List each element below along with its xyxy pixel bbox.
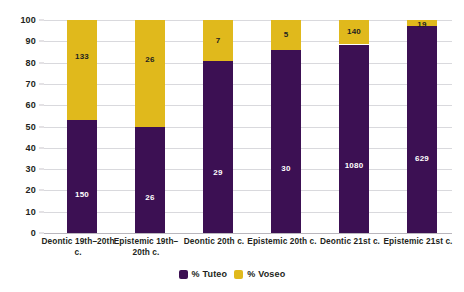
x-axis-category-label: Deontic 20th c. bbox=[176, 236, 252, 247]
bar-value-label-voseo: 7 bbox=[203, 36, 233, 45]
gridline bbox=[44, 105, 452, 106]
y-axis-tick-label: 10 bbox=[26, 207, 36, 217]
bar-group[interactable]: 133150 bbox=[67, 20, 97, 233]
bar-value-label-tuteo: 629 bbox=[407, 154, 437, 163]
x-axis-category-label: Deontic 19th–20th c. bbox=[40, 236, 116, 258]
x-axis-category-label: Epistemic 20th c. bbox=[244, 236, 320, 247]
legend-item[interactable]: % Voseo bbox=[234, 269, 285, 279]
bar-value-label-voseo: 26 bbox=[135, 55, 165, 64]
gridline bbox=[44, 20, 452, 21]
bar-value-label-tuteo: 26 bbox=[135, 193, 165, 202]
y-axis-tick-label: 30 bbox=[26, 164, 36, 174]
y-axis-tick-label: 0 bbox=[31, 228, 36, 238]
y-axis-tick-label: 60 bbox=[26, 100, 36, 110]
bar-segment-tuteo[interactable] bbox=[271, 50, 301, 233]
bar-value-label-tuteo: 150 bbox=[67, 190, 97, 199]
legend-item-label: % Tuteo bbox=[192, 269, 228, 279]
bar-value-label-tuteo: 30 bbox=[271, 164, 301, 173]
x-axis-category-label: Deontic 21st c. bbox=[312, 236, 388, 247]
gridline bbox=[44, 84, 452, 85]
gridline bbox=[44, 233, 452, 234]
bar-value-label-voseo: 133 bbox=[67, 52, 97, 61]
stacked-bar-chart: 1009080706050403020100 13315026267295301… bbox=[0, 0, 464, 292]
bar-value-label-voseo: 19 bbox=[407, 20, 437, 29]
legend-item-label: % Voseo bbox=[247, 269, 285, 279]
y-axis: 1009080706050403020100 bbox=[0, 20, 44, 233]
bar-value-label-voseo: 140 bbox=[339, 27, 369, 36]
bar-segment-tuteo[interactable] bbox=[407, 26, 437, 233]
y-axis-tick-label: 70 bbox=[26, 79, 36, 89]
gridline bbox=[44, 190, 452, 191]
bar-segment-tuteo[interactable] bbox=[135, 127, 165, 234]
gridline bbox=[44, 63, 452, 64]
bar-value-label-tuteo: 29 bbox=[203, 168, 233, 177]
y-axis-tick-label: 20 bbox=[26, 185, 36, 195]
gridline bbox=[44, 148, 452, 149]
y-axis-tick-label: 90 bbox=[26, 36, 36, 46]
legend-color-swatch bbox=[234, 270, 243, 279]
bar-segment-tuteo[interactable] bbox=[203, 61, 233, 233]
y-axis-tick-label: 40 bbox=[26, 143, 36, 153]
legend-item[interactable]: % Tuteo bbox=[179, 269, 228, 279]
bar-value-label-tuteo: 1080 bbox=[339, 161, 369, 170]
bar-group[interactable]: 530 bbox=[271, 20, 301, 233]
y-axis-tick-label: 100 bbox=[20, 15, 36, 25]
bar-segment-tuteo[interactable] bbox=[67, 120, 97, 233]
bar-group[interactable]: 1401080 bbox=[339, 20, 369, 233]
plot-area: 1331502626729530140108019629 bbox=[44, 20, 452, 233]
bar-group[interactable]: 2626 bbox=[135, 20, 165, 233]
x-axis-category-label: Epistemic 19th–20th c. bbox=[108, 236, 184, 258]
x-axis: Deontic 19th–20th c.Epistemic 19th–20th … bbox=[44, 236, 452, 266]
gridline bbox=[44, 127, 452, 128]
bar-segment-voseo[interactable] bbox=[67, 20, 97, 120]
bar-group[interactable]: 729 bbox=[203, 20, 233, 233]
gridline bbox=[44, 41, 452, 42]
gridline bbox=[44, 169, 452, 170]
chart-legend: % Tuteo% Voseo bbox=[0, 269, 464, 279]
bar-group[interactable]: 19629 bbox=[407, 20, 437, 233]
legend-color-swatch bbox=[179, 270, 188, 279]
y-axis-tick-label: 80 bbox=[26, 58, 36, 68]
gridline bbox=[44, 212, 452, 213]
bar-value-label-voseo: 5 bbox=[271, 30, 301, 39]
x-axis-category-label: Epistemic 21st c. bbox=[380, 236, 456, 247]
bar-segment-voseo[interactable] bbox=[135, 20, 165, 127]
y-axis-tick-label: 50 bbox=[26, 122, 36, 132]
bar-segment-tuteo[interactable] bbox=[339, 45, 369, 234]
